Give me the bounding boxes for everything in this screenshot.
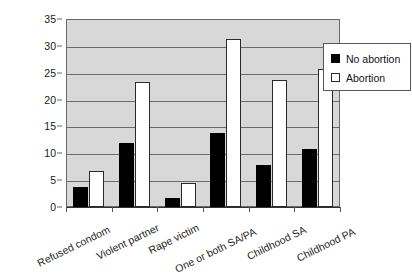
x-axis-category-label: Childhood PA (295, 226, 357, 264)
x-axis-category-label: Rape victim (147, 222, 201, 256)
filled-square-icon (331, 54, 340, 63)
y-tick-label: 30 (44, 41, 56, 52)
bar-group (165, 19, 196, 207)
bar-abortion (226, 39, 241, 207)
y-tick-label: 0 (50, 202, 56, 213)
legend-item-abortion: Abortion (331, 68, 405, 87)
legend-item-label: Abortion (346, 72, 385, 84)
y-tick-mark (57, 99, 62, 100)
y-tick-label: 20 (44, 94, 56, 105)
y-tick-mark (57, 153, 62, 154)
x-tick-mark (294, 207, 295, 212)
bars-layer (66, 19, 340, 207)
bar-abortion (181, 183, 196, 207)
legend-item-no-abortion: No abortion (331, 49, 405, 68)
bar-no-abortion (165, 198, 180, 207)
bar-no-abortion (210, 133, 225, 207)
bar-group (210, 19, 241, 207)
y-tick-mark (57, 72, 62, 73)
y-tick-label: 25 (44, 67, 56, 78)
y-tick-label: 35 (44, 14, 56, 25)
y-tick-mark (57, 45, 62, 46)
bar-abortion (135, 82, 150, 207)
bar-group (119, 19, 150, 207)
y-axis: 05101520253035 (36, 19, 62, 207)
y-tick-label: 5 (50, 175, 56, 186)
bar-group (73, 19, 104, 207)
x-tick-mark (66, 207, 67, 212)
x-tick-mark (112, 207, 113, 212)
x-tick-mark (340, 207, 341, 212)
legend: No abortion Abortion (323, 43, 411, 91)
x-axis-category-label: Refused condom (36, 224, 112, 269)
x-axis-category-label: Childhood SA (245, 224, 308, 263)
bar-no-abortion (73, 187, 88, 207)
x-axis-category-label: Violent partner (95, 222, 161, 262)
bar-abortion (89, 171, 104, 207)
x-axis-category-label: One or both SA/PA (173, 226, 258, 275)
y-tick-mark (57, 207, 62, 208)
y-tick-mark (57, 180, 62, 181)
bar-group (256, 19, 287, 207)
legend-item-label: No abortion (346, 53, 400, 65)
bar-no-abortion (302, 149, 317, 207)
bar-abortion (272, 80, 287, 207)
y-tick-mark (57, 19, 62, 20)
bar-no-abortion (119, 143, 134, 207)
hollow-square-icon (331, 73, 340, 82)
bar-no-abortion (256, 165, 271, 207)
x-tick-mark (249, 207, 250, 212)
y-tick-label: 10 (44, 148, 56, 159)
y-tick-label: 15 (44, 121, 56, 132)
x-tick-mark (203, 207, 204, 212)
y-tick-mark (57, 126, 62, 127)
bar-chart: 05101520253035 Refused condomViolent par… (0, 0, 412, 275)
x-tick-mark (157, 207, 158, 212)
